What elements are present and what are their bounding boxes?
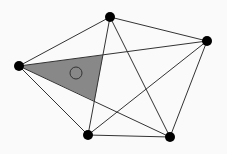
node-top xyxy=(105,12,115,22)
graph-diagram xyxy=(0,0,227,154)
node-left xyxy=(14,61,24,71)
node-right xyxy=(202,36,212,46)
node-bottom-right xyxy=(165,132,175,142)
node-bottom-left xyxy=(83,130,93,140)
